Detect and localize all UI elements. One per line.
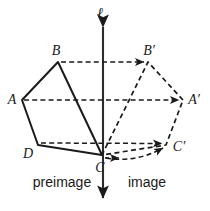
vertex-A-prime-label: A′ — [187, 92, 201, 107]
correspondence-arrows — [24, 62, 179, 159]
side-captions: preimage image — [33, 174, 166, 190]
vertex-D-prime-label: C′ — [173, 139, 186, 154]
vertex-B-label: B — [52, 43, 61, 58]
line-ell-label: ℓ — [97, 5, 103, 21]
arrow-D-to-D-prime — [41, 143, 162, 144]
preimage-label: preimage — [33, 174, 92, 190]
vertex-C-label: C — [95, 160, 105, 175]
preimage-shape — [22, 62, 102, 155]
image-polygon — [102, 62, 183, 155]
image-vertex-labels: A′ B′ C′ — [143, 43, 201, 154]
image-shape — [102, 62, 183, 155]
vertex-D-label: D — [22, 146, 33, 161]
vertex-B-prime-label: B′ — [143, 43, 156, 58]
vertex-A-label: A — [7, 92, 17, 107]
image-label: image — [128, 174, 166, 190]
reflection-figure: ℓ A B C D A′ B′ C′ preimage image — [0, 0, 210, 211]
preimage-polygon — [22, 62, 102, 155]
